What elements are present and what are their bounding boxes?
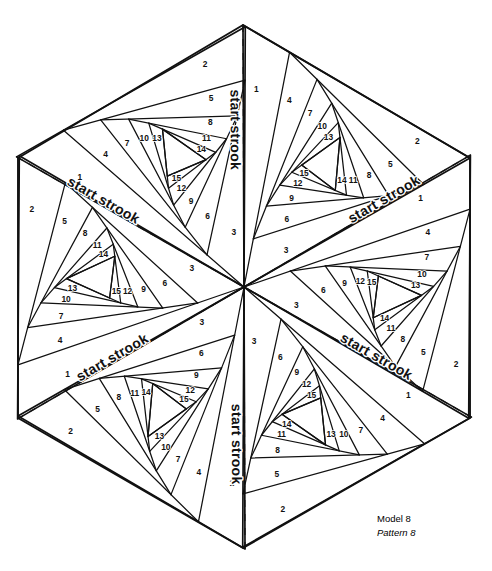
strip-number: 11 — [277, 429, 286, 439]
strip-number: 2 — [203, 59, 208, 69]
strip-number: 11 — [202, 133, 211, 143]
strip-number: 15 — [299, 168, 309, 178]
strip-number: 1 — [65, 369, 70, 379]
start-strook-label: start strook — [65, 173, 143, 227]
strip-number: 7 — [425, 252, 430, 262]
strip-number: 4 — [380, 413, 385, 423]
strip-number: 13 — [326, 429, 336, 439]
strip-number: 3 — [200, 317, 205, 327]
strip-number: 6 — [284, 214, 289, 224]
strip-number: 12 — [293, 178, 303, 188]
strip-number: 13 — [68, 283, 78, 293]
strip-number: 13 — [152, 133, 162, 143]
strip-number: 1 — [418, 193, 423, 203]
wedge-right: 123456789101112131415 — [244, 155, 470, 418]
strip-number: 13 — [411, 280, 421, 290]
strip-number: 6 — [321, 285, 326, 295]
strip-number: 3 — [294, 300, 299, 310]
strip-number: 3 — [284, 245, 289, 255]
strip-number: 2 — [454, 359, 459, 369]
strip-number: 7 — [125, 138, 130, 148]
strip-number: 9 — [295, 367, 300, 377]
caption-pattern: Pattern 8 — [377, 526, 416, 540]
strip-number: 8 — [275, 445, 280, 455]
strip-number: 11 — [349, 175, 358, 185]
strip-number: 9 — [194, 370, 199, 380]
strip-number: 12 — [356, 276, 366, 286]
strip-number: 6 — [162, 278, 167, 288]
strip-number: 2 — [280, 504, 285, 514]
strip-number: 2 — [415, 136, 420, 146]
strip-number: 15 — [179, 394, 189, 404]
strip-number: 10 — [339, 429, 349, 439]
strip-number: 15 — [307, 390, 317, 400]
wedge-left: 123456789101112131415 — [18, 156, 244, 419]
strip-number: 8 — [116, 392, 121, 402]
strip-number: 11 — [130, 388, 139, 398]
strip-number: 3 — [189, 263, 194, 273]
strip-number: 14 — [197, 144, 207, 154]
strip-number: 4 — [287, 95, 292, 105]
strip-number: 4 — [103, 149, 108, 159]
strip-number: 4 — [425, 227, 430, 237]
strip-number: 11 — [93, 240, 102, 250]
strip-number: 7 — [176, 454, 181, 464]
strip-number: 3 — [232, 227, 237, 237]
strip-number: 7 — [59, 311, 64, 321]
strip-number: 14 — [99, 249, 109, 259]
strip-number: 5 — [388, 159, 393, 169]
strip-number: 8 — [208, 117, 213, 127]
strip-number: 15 — [367, 277, 377, 287]
strip-number: 12 — [302, 379, 312, 389]
strip-number: 11 — [386, 323, 395, 333]
strip-number: 5 — [209, 93, 214, 103]
caption-block: Model 8 Pattern 8 — [377, 512, 416, 540]
start-strook-guide: start strook — [228, 25, 244, 287]
strip-number: 7 — [308, 108, 313, 118]
start-strook-label: start strook — [73, 330, 151, 384]
strip-number: 13 — [155, 431, 165, 441]
strip-number: 14 — [380, 313, 390, 323]
pattern-svg: 1234567891011121314151234567891011121314… — [0, 0, 492, 571]
strip-number: 9 — [342, 278, 347, 288]
strip-number: 7 — [359, 425, 364, 435]
strip-number: 8 — [400, 334, 405, 344]
strip-number: 4 — [196, 467, 201, 477]
strip-number: 2 — [68, 426, 73, 436]
strip-number: 9 — [189, 196, 194, 206]
strip-number: 12 — [177, 183, 187, 193]
strip-number: 10 — [140, 133, 150, 143]
strip-number: 4 — [58, 335, 63, 345]
strip-number: 12 — [123, 286, 133, 296]
strip-number: 8 — [367, 170, 372, 180]
strip-number: 9 — [289, 193, 294, 203]
strip-number: 10 — [61, 294, 71, 304]
start-strook-label: start strook — [228, 89, 244, 170]
strip-number: 5 — [275, 469, 280, 479]
strip-number: 5 — [62, 216, 67, 226]
strip-number: 2 — [30, 204, 35, 214]
strip-number: 6 — [278, 352, 283, 362]
start-strook-label: start strook — [229, 404, 245, 485]
strip-number: 5 — [421, 347, 426, 357]
strip-number: 9 — [141, 284, 146, 294]
wedge-top-left: 123456789101112131415 — [17, 27, 246, 287]
strip-number: 15 — [172, 173, 182, 183]
strip-number: 3 — [252, 336, 257, 346]
iris-folding-pattern: 1234567891011121314151234567891011121314… — [0, 0, 492, 571]
strip-number: 14 — [282, 419, 292, 429]
strip-number: 10 — [317, 121, 327, 131]
wedge-bottom-right: 123456789101112131415 — [243, 287, 472, 547]
strip-number: 6 — [205, 211, 210, 221]
strip-number: 10 — [417, 269, 427, 279]
strip-number: 6 — [199, 348, 204, 358]
strip-number: 1 — [254, 84, 259, 94]
strip-number: 13 — [324, 132, 334, 142]
strip-number: 8 — [83, 228, 88, 238]
strip-number: 14 — [337, 175, 347, 185]
caption-model: Model 8 — [377, 512, 416, 526]
strip-number: 10 — [161, 442, 171, 452]
strip-number: 5 — [95, 404, 100, 414]
strip-number: 1 — [406, 390, 411, 400]
strip-number: 15 — [112, 286, 122, 296]
